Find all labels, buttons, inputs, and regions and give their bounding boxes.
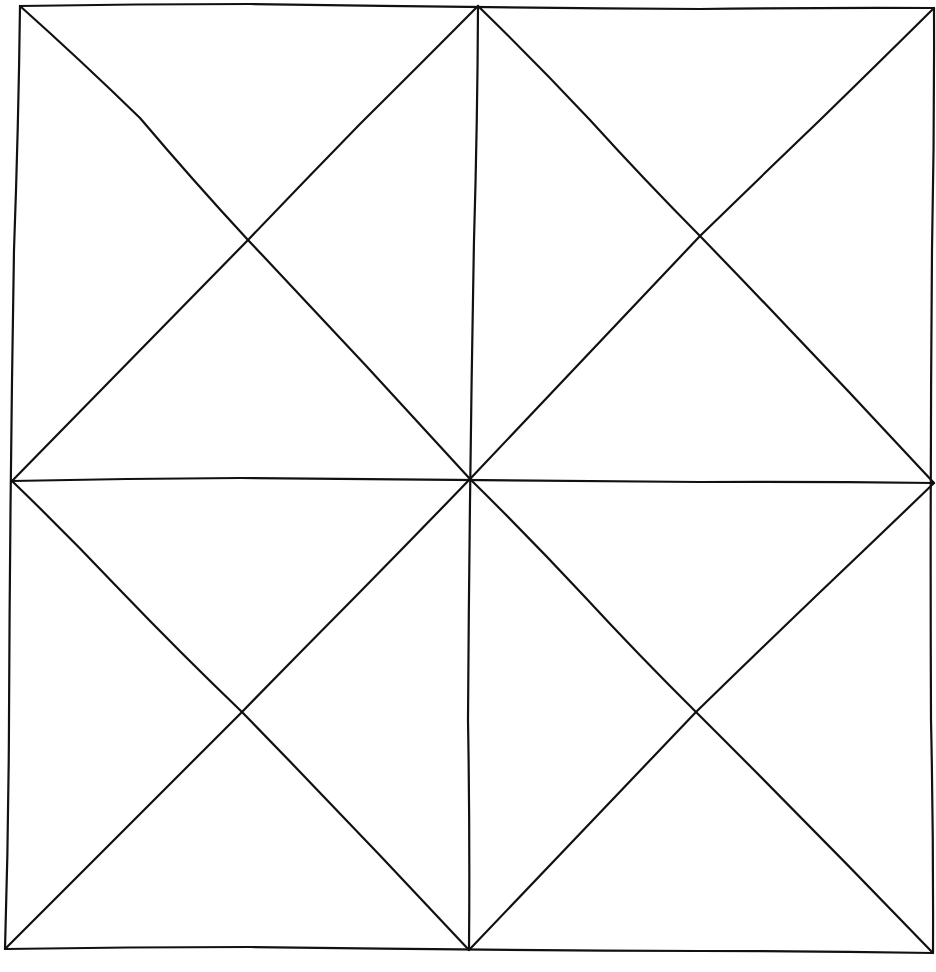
paper-background <box>0 0 936 972</box>
drawing-canvas <box>0 0 936 972</box>
quadrant-x-diagram <box>0 0 936 972</box>
